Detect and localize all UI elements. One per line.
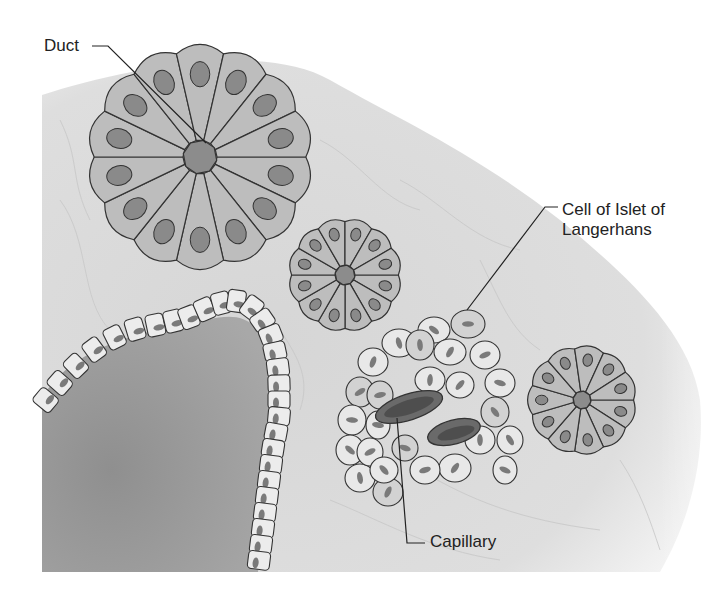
islet-label-line2: Langerhans: [562, 220, 665, 240]
capillary-label: Capillary: [430, 532, 496, 552]
duct-label: Duct: [44, 36, 79, 56]
pancreas-diagram: [0, 0, 726, 599]
islet-label-line1: Cell of Islet of: [562, 200, 665, 220]
large-acinus: [90, 44, 311, 269]
medium-acinus: [290, 220, 401, 331]
islet-cell-label: Cell of Islet of Langerhans: [562, 200, 665, 240]
